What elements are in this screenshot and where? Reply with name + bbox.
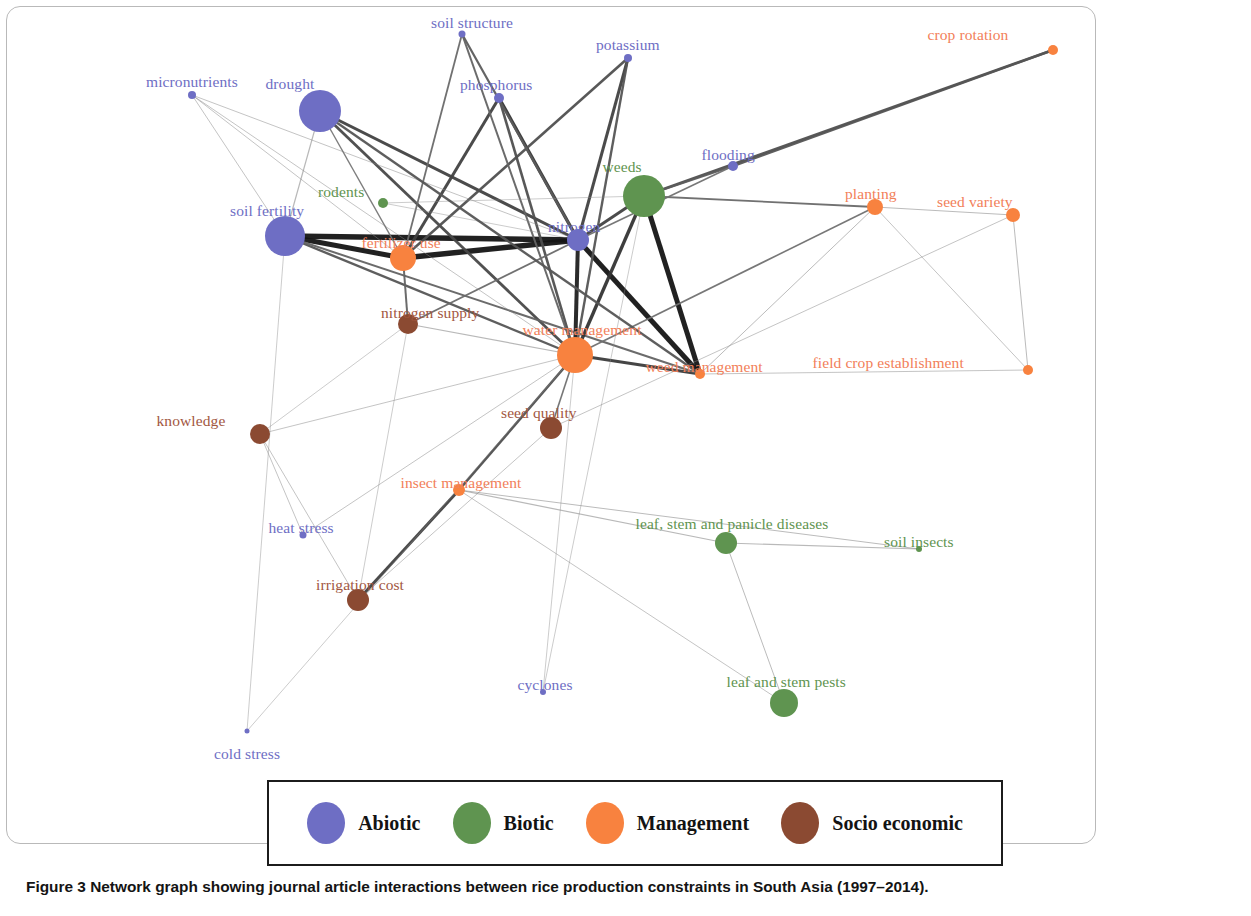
network-graph xyxy=(0,0,1110,790)
graph-node[interactable] xyxy=(715,532,737,554)
graph-edge xyxy=(383,196,644,203)
graph-edge xyxy=(403,240,578,258)
graph-node[interactable] xyxy=(347,589,369,611)
graph-edge xyxy=(320,111,575,355)
graph-edge xyxy=(247,236,285,731)
graph-node[interactable] xyxy=(540,417,562,439)
graph-node[interactable] xyxy=(624,54,632,62)
graph-edge xyxy=(543,196,644,692)
graph-edge xyxy=(462,34,578,240)
graph-edge xyxy=(320,111,700,374)
legend-item-abiotic: Abiotic xyxy=(307,802,420,844)
graph-edge xyxy=(320,111,578,240)
graph-edge xyxy=(260,434,358,600)
graph-edge xyxy=(575,207,875,355)
node-layer xyxy=(188,31,1058,734)
graph-edge xyxy=(260,434,303,535)
legend-label-socio-economic: Socio economic xyxy=(832,812,963,835)
graph-node[interactable] xyxy=(1023,365,1033,375)
graph-node[interactable] xyxy=(245,729,250,734)
figure-caption-text: Network graph showing journal article in… xyxy=(90,878,928,895)
graph-node[interactable] xyxy=(557,337,593,373)
graph-node[interactable] xyxy=(398,314,418,334)
graph-edge xyxy=(700,370,1028,374)
graph-node[interactable] xyxy=(453,484,465,496)
graph-node[interactable] xyxy=(378,198,388,208)
legend-item-management: Management xyxy=(586,802,749,844)
graph-node[interactable] xyxy=(494,93,504,103)
graph-edge xyxy=(260,355,575,434)
graph-edge xyxy=(733,50,1053,166)
graph-node[interactable] xyxy=(1048,45,1058,55)
legend-swatch-abiotic xyxy=(307,802,345,844)
graph-node[interactable] xyxy=(265,216,305,256)
graph-edge xyxy=(726,543,919,549)
graph-node[interactable] xyxy=(300,532,307,539)
graph-node[interactable] xyxy=(188,91,196,99)
graph-node[interactable] xyxy=(567,229,589,251)
legend-swatch-management xyxy=(586,802,624,844)
figure-caption-number: Figure 3 xyxy=(26,878,86,895)
graph-edge xyxy=(462,34,575,355)
graph-node[interactable] xyxy=(728,161,738,171)
graph-node[interactable] xyxy=(1006,208,1020,222)
graph-edge xyxy=(644,196,700,374)
graph-edge xyxy=(499,98,575,355)
legend-swatch-socio-economic xyxy=(781,802,819,844)
graph-node[interactable] xyxy=(250,424,270,444)
legend: Abiotic Biotic Management Socio economic xyxy=(267,780,1003,866)
graph-node[interactable] xyxy=(459,31,466,38)
graph-node[interactable] xyxy=(623,175,665,217)
graph-edge xyxy=(875,207,1013,215)
graph-node[interactable] xyxy=(770,689,798,717)
graph-node[interactable] xyxy=(390,245,416,271)
edge-layer xyxy=(192,34,1053,731)
graph-edge xyxy=(260,324,408,434)
graph-edge xyxy=(358,428,551,600)
graph-node[interactable] xyxy=(916,546,922,552)
graph-node[interactable] xyxy=(867,199,883,215)
graph-edge xyxy=(247,355,575,731)
graph-node[interactable] xyxy=(299,90,341,132)
legend-label-management: Management xyxy=(637,812,749,835)
figure-caption: Figure 3 Network graph showing journal a… xyxy=(26,878,1226,896)
graph-edge xyxy=(726,543,784,703)
graph-edge xyxy=(358,490,459,600)
graph-edge xyxy=(192,95,285,236)
graph-edge xyxy=(575,355,700,374)
legend-item-socio-economic: Socio economic xyxy=(781,802,963,844)
legend-label-abiotic: Abiotic xyxy=(358,812,420,835)
legend-label-biotic: Biotic xyxy=(504,812,554,835)
graph-edge xyxy=(403,34,462,258)
figure-container: soil structurepotassiumcrop rotationmicr… xyxy=(0,0,1251,916)
graph-edge xyxy=(644,196,875,207)
graph-node[interactable] xyxy=(540,689,546,695)
graph-edge xyxy=(358,324,408,600)
legend-swatch-biotic xyxy=(453,802,491,844)
graph-edge xyxy=(1013,215,1028,370)
graph-edge xyxy=(459,490,919,549)
graph-edge xyxy=(575,58,628,355)
graph-edge xyxy=(408,324,575,355)
graph-node[interactable] xyxy=(695,369,705,379)
legend-item-biotic: Biotic xyxy=(453,802,554,844)
graph-edge xyxy=(303,355,575,535)
graph-edge xyxy=(875,207,1028,370)
